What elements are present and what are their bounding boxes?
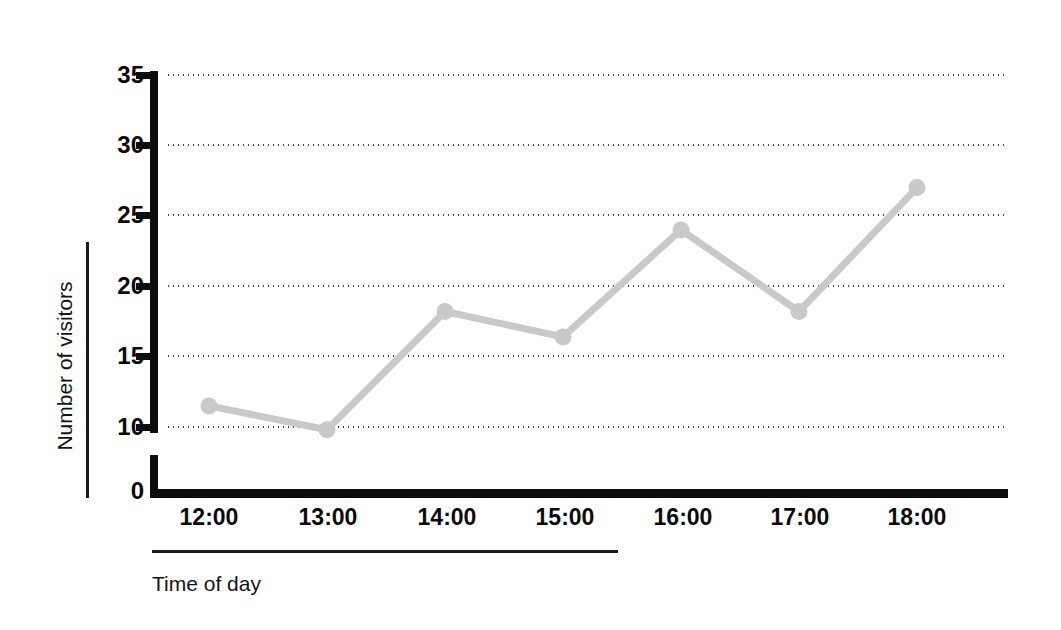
- chart-canvas: Number of visitors 35 30 25 20 15 10 0 1…: [0, 0, 1061, 630]
- x-tick-label-1200: 12:00: [149, 506, 269, 529]
- data-point-1500: [555, 328, 572, 345]
- data-point-1600: [673, 221, 690, 238]
- gridline-30: [166, 144, 1006, 146]
- y-tick-mark-25: [136, 212, 158, 219]
- data-point-1400: [437, 303, 454, 320]
- x-axis-title-rule: [152, 550, 618, 553]
- y-axis-spine-upper: [150, 71, 158, 433]
- y-axis-tick-labels: 35 30 25 20 15 10 0: [44, 0, 144, 630]
- y-tick-mark-20: [136, 283, 158, 290]
- x-tick-label-1400: 14:00: [387, 506, 507, 529]
- x-tick-label-1300: 13:00: [268, 506, 388, 529]
- gridline-20: [166, 285, 1006, 287]
- data-point-1200: [201, 397, 218, 414]
- x-tick-label-1700: 17:00: [740, 506, 860, 529]
- gridline-15: [166, 355, 1006, 357]
- series-markers: [201, 179, 926, 438]
- x-axis-title-label: Time of day: [152, 572, 261, 596]
- series-line: [209, 188, 917, 430]
- data-point-1800: [909, 179, 926, 196]
- y-tick-mark-10: [136, 424, 158, 431]
- data-point-1300: [319, 421, 336, 438]
- data-point-1700: [791, 303, 808, 320]
- x-tick-label-1800: 18:00: [857, 506, 977, 529]
- y-tick-mark-35: [136, 72, 158, 79]
- gridline-10: [166, 426, 1006, 428]
- x-axis-spine: [150, 489, 1008, 498]
- y-tick-label-0: 0: [88, 479, 144, 503]
- y-tick-mark-15: [136, 353, 158, 360]
- x-tick-label-1600: 16:00: [623, 506, 743, 529]
- gridline-35: [166, 74, 1006, 76]
- gridline-25: [166, 214, 1006, 216]
- y-tick-mark-30: [136, 142, 158, 149]
- data-series-visitors: [0, 0, 1061, 630]
- x-tick-label-1500: 15:00: [505, 506, 625, 529]
